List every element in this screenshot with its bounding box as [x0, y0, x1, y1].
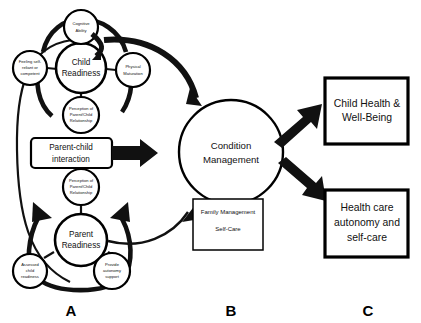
node-child-readiness-label-1: Child [72, 58, 91, 67]
node-provide-autonomy-support-label-3: support [105, 274, 120, 279]
node-assessed-child-readiness-label-1: Assessed [21, 262, 39, 267]
box-family-management-label: Family Management [201, 209, 256, 215]
box-parent-child-interaction-label-1: Parent-child [49, 143, 93, 152]
arrow-condition-to-healthcare-autonomy [278, 157, 326, 201]
node-perception-child-label-2: Parent/Child [70, 112, 93, 117]
node-cognitive-ability-label-2: Ability [76, 28, 88, 33]
box-healthcare-autonomy-label-1: Health care [340, 202, 393, 213]
node-perception-parent-label-2: Parent/Child [70, 184, 93, 189]
box-parent-child-interaction-label-2: interaction [52, 155, 90, 164]
node-perception-child-label-1: Perception of [69, 106, 94, 111]
arrow-condition-to-child-health [274, 104, 322, 148]
section-label-a: A [66, 302, 77, 319]
node-provide-autonomy-support-label-1: Provide [105, 262, 120, 267]
diagram-root: Child Readiness Cognitive Ability Feelin… [0, 0, 421, 323]
node-physical-maturation-label-2: Maturation [123, 71, 143, 76]
node-feeling-self-reliant-label-2: reliant or [22, 65, 39, 70]
arrowhead-into-parent-left [32, 202, 52, 222]
node-cognitive-ability-label-1: Cognitive [72, 21, 90, 26]
arrow-interaction-to-condition [112, 139, 158, 167]
box-family-management-self-care [193, 199, 263, 250]
node-feeling-self-reliant-label-1: Feeling self- [19, 59, 42, 64]
node-cognitive-ability [64, 10, 98, 44]
conceptual-model-figure: Child Readiness Cognitive Ability Feelin… [0, 0, 421, 323]
node-assessed-child-readiness-label-3: readiness [21, 274, 39, 279]
node-perception-parent-label-1: Perception of [69, 178, 94, 183]
box-healthcare-autonomy-label-2: autonomy and [334, 217, 400, 228]
node-physical-maturation-label-1: Physical [125, 64, 140, 69]
node-child-readiness-label-2: Readiness [62, 69, 101, 78]
node-condition-management [179, 100, 283, 204]
node-assessed-child-readiness-label-2: child [26, 268, 35, 273]
section-label-c: C [363, 302, 374, 319]
box-child-health-label-1: Child Health & [334, 98, 400, 109]
node-condition-management-label-1: Condition [211, 140, 252, 151]
parent-spoke-left [44, 252, 54, 258]
node-parent-readiness-label-1: Parent [69, 230, 94, 239]
box-self-care-label: Self-Care [215, 226, 241, 232]
node-physical-maturation [116, 53, 150, 87]
node-parent-readiness-label-2: Readiness [62, 241, 101, 250]
node-perception-parent-label-3: Relationship [70, 190, 93, 195]
section-label-b: B [226, 302, 237, 319]
box-healthcare-autonomy-label-3: self-care [347, 232, 387, 243]
node-perception-child-label-3: Relationship [70, 118, 93, 123]
node-feeling-self-reliant-label-3: competent [20, 71, 40, 76]
arrowhead-into-parent-right [110, 202, 130, 222]
box-child-health-label-2: Well-Being [342, 112, 392, 123]
node-provide-autonomy-support-label-2: autonomy [103, 268, 122, 273]
node-condition-management-label-2: Management [203, 154, 259, 165]
spoke-right [106, 69, 116, 70]
